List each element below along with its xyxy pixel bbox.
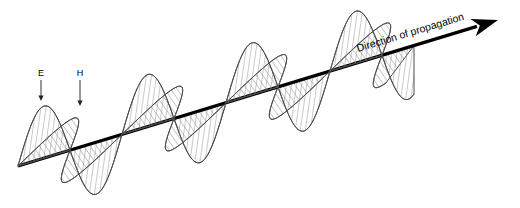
wave-lobe-e [226,43,278,103]
em-wave-figure: E H Direction of propagation [0,0,520,208]
wave-lobe-e [122,74,174,134]
em-wave-canvas: E H Direction of propagation [0,0,520,208]
h-field-label: H [77,68,84,78]
e-field-annotation: E [38,68,44,101]
wave-lobe-e [18,106,70,166]
h-field-annotation: H [77,68,84,106]
h-pointer-arrow-icon [77,101,82,107]
e-pointer-arrow-icon [38,96,43,102]
e-field-label: E [38,68,44,78]
